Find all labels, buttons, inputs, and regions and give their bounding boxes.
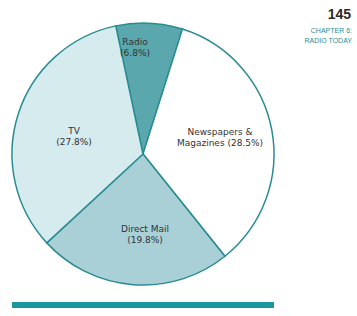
label-radio: Radio (6.8%) [120,37,150,59]
label-direct-mail: Direct Mail (19.8%) [121,224,169,246]
label-tv-name: TV [56,126,92,137]
label-radio-value: (6.8%) [120,48,150,59]
label-newspapers: Newspapers & Magazines (28.5%) [177,127,263,149]
label-direct-mail-name: Direct Mail [121,224,169,235]
label-tv-value: (27.8%) [56,137,92,148]
label-radio-name: Radio [120,37,150,48]
pie-chart [0,0,357,316]
label-tv: TV (27.8%) [56,126,92,148]
divider-bar [12,302,274,308]
label-newspapers-name: Newspapers & [177,127,263,138]
label-newspapers-value: Magazines (28.5%) [177,138,263,149]
label-direct-mail-value: (19.8%) [121,235,169,246]
